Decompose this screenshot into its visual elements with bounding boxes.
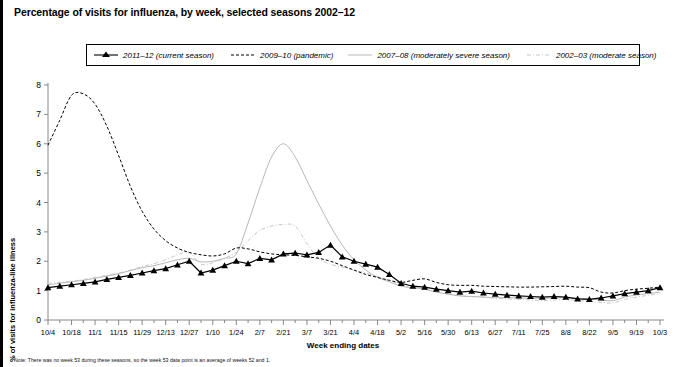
x-tick-label: 5/30 [441, 328, 455, 337]
data-point-marker [315, 249, 322, 255]
data-point-marker [327, 242, 334, 248]
x-tick-label: 6/27 [488, 328, 502, 337]
x-tick-label: 6/13 [464, 328, 478, 337]
x-tick-label: 4/18 [370, 328, 384, 337]
x-tick-label: 11/15 [110, 328, 128, 337]
series-line [48, 144, 660, 301]
y-tick-label: 1 [36, 286, 41, 296]
x-tick-label: 12/27 [180, 328, 199, 337]
x-tick-label: 11/29 [133, 328, 151, 337]
x-tick-label: 8/22 [582, 328, 596, 337]
x-tick-label: 3/7 [302, 328, 312, 337]
y-tick-label: 4 [36, 198, 41, 208]
data-point-marker [256, 255, 263, 261]
x-tick-label: 1/24 [229, 328, 243, 337]
y-tick-label: 5 [36, 168, 41, 178]
x-tick-label: 5/16 [417, 328, 431, 337]
x-tick-label: 7/11 [512, 328, 526, 337]
x-tick-label: 8/8 [561, 328, 571, 337]
data-point-marker [386, 271, 393, 277]
x-tick-label: 1/10 [206, 328, 220, 337]
series-3 [48, 144, 660, 301]
x-tick-label: 10/4 [41, 328, 55, 337]
series-1 [45, 242, 664, 302]
y-tick-label: 8 [36, 80, 41, 90]
x-tick-label: 3/21 [323, 328, 337, 337]
x-tick-label: 10/18 [62, 328, 81, 337]
y-tick-label: 2 [36, 256, 41, 266]
x-axis-label: Week ending dates [0, 341, 686, 350]
y-tick-label: 3 [36, 227, 41, 237]
x-tick-label: 9/5 [608, 328, 618, 337]
data-point-marker [233, 258, 240, 264]
x-tick-label: 12/13 [156, 328, 175, 337]
x-tick-label: 7/25 [535, 328, 549, 337]
chart-note: Note: There was no week 53 during these … [14, 357, 270, 363]
x-tick-label: 4/4 [349, 328, 359, 337]
x-tick-label: 2/7 [255, 328, 265, 337]
y-tick-label: 6 [36, 139, 41, 149]
x-tick-label: 11/1 [88, 328, 102, 337]
y-tick-label: 7 [36, 109, 41, 119]
x-tick-label: 9/19 [629, 328, 643, 337]
x-tick-label: 5/2 [396, 328, 406, 337]
x-tick-label: 10/3 [653, 328, 667, 337]
chart-plot-area: 01234567810/410/1811/111/1511/2912/1312/… [0, 0, 686, 367]
x-tick-label: 2/21 [276, 328, 290, 337]
series-line [48, 245, 660, 299]
y-tick-label: 0 [36, 315, 41, 325]
